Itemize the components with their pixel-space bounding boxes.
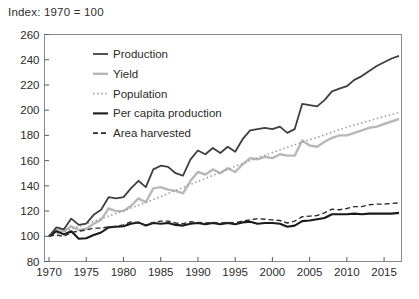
legend-label-area-harvested: Area harvested [113,127,191,139]
y-tick-label: 140 [20,180,39,192]
x-tick-label: 1990 [185,266,211,278]
x-tick-label: 1995 [222,266,248,278]
y-tick-label: 180 [20,129,39,141]
legend-label-per-capita-production: Per capita production [113,107,222,119]
y-tick-label: 160 [20,155,39,167]
x-tick-label: 1980 [111,266,137,278]
y-tick-label: 220 [20,79,39,91]
x-tick-label: 1985 [148,266,174,278]
x-tick-label: 1970 [36,266,62,278]
chart-figure: Index: 1970 = 100 8010012014016018020022… [0,0,419,299]
y-tick-label: 260 [20,29,39,41]
legend-label-production: Production [113,48,168,60]
x-tick-label: 2005 [297,266,323,278]
series-line-yield [49,119,399,236]
x-tick-label: 2010 [334,266,360,278]
x-tick-label: 2015 [371,266,397,278]
x-tick-label: 1975 [73,266,99,278]
y-tick-label: 240 [20,54,39,66]
y-tick-label: 200 [20,104,39,116]
series-line-per-capita-production [49,213,399,239]
y-tick-label: 100 [20,230,39,242]
chart-svg: 8010012014016018020022024026019701975198… [0,0,419,299]
y-tick-label: 120 [20,205,39,217]
legend-label-population: Population [113,88,167,100]
legend-label-yield: Yield [113,68,138,80]
x-tick-label: 2000 [260,266,286,278]
